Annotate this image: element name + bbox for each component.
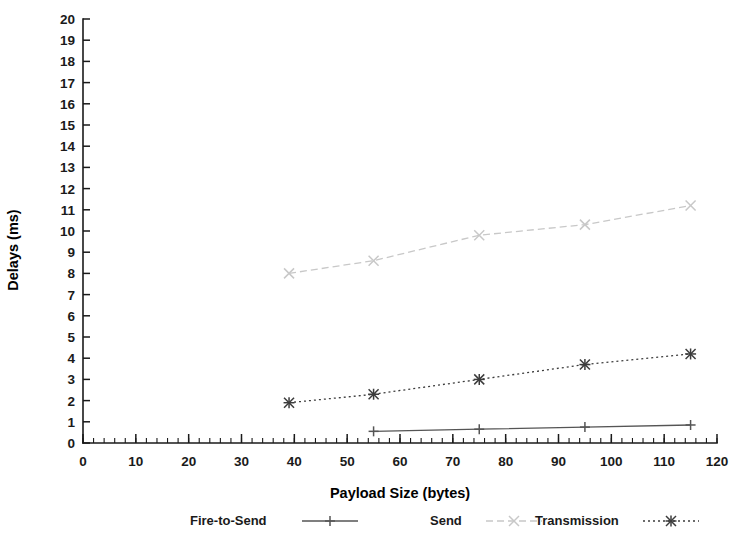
- data-point-marker: [579, 359, 590, 370]
- y-tick-label: 0: [67, 436, 75, 451]
- y-tick-label: 6: [67, 309, 75, 324]
- legend-label: Transmission: [535, 513, 619, 528]
- x-tick-label: 50: [340, 454, 355, 469]
- x-tick-label: 110: [653, 454, 675, 469]
- x-tick-label: 70: [445, 454, 460, 469]
- data-point-marker: [284, 397, 295, 408]
- y-tick-label: 3: [67, 372, 75, 387]
- data-point-marker: [368, 389, 379, 400]
- x-tick-label: 60: [392, 454, 407, 469]
- y-tick-label: 4: [67, 351, 75, 366]
- x-tick-label: 120: [706, 454, 729, 469]
- x-axis-title: Payload Size (bytes): [330, 485, 470, 501]
- x-tick-label: 80: [498, 454, 513, 469]
- y-tick-label: 20: [60, 12, 75, 27]
- y-tick-label: 5: [67, 330, 75, 345]
- chart-background: [0, 0, 755, 545]
- legend-label: Send: [430, 513, 462, 528]
- y-tick-label: 8: [67, 266, 75, 281]
- y-tick-label: 1: [67, 415, 75, 430]
- y-tick-label: 18: [60, 54, 76, 69]
- delays-vs-payload-size-chart: 01234567891011121314151617181920 0102030…: [0, 0, 755, 545]
- legend-label: Fire-to-Send: [190, 513, 267, 528]
- y-tick-label: 16: [60, 97, 76, 112]
- y-tick-label: 10: [60, 224, 75, 239]
- y-tick-label: 15: [60, 118, 76, 133]
- data-point-marker: [474, 374, 485, 385]
- y-tick-label: 17: [60, 76, 75, 91]
- x-tick-label: 10: [128, 454, 143, 469]
- x-tick-label: 100: [600, 454, 623, 469]
- data-point-marker: [685, 348, 696, 359]
- y-axis-title: Delays (ms): [5, 209, 21, 291]
- y-tick-label: 14: [60, 139, 76, 154]
- chart-canvas: 01234567891011121314151617181920 0102030…: [0, 0, 755, 545]
- y-tick-label: 13: [60, 160, 76, 175]
- y-tick-label: 11: [61, 203, 76, 218]
- x-tick-label: 90: [551, 454, 566, 469]
- x-tick-label: 40: [287, 454, 302, 469]
- y-tick-label: 2: [67, 394, 75, 409]
- y-tick-label: 12: [60, 182, 75, 197]
- data-point-marker: [666, 516, 677, 527]
- x-tick-label: 20: [181, 454, 196, 469]
- x-tick-label: 0: [79, 454, 87, 469]
- y-tick-label: 9: [67, 245, 75, 260]
- y-tick-label: 19: [60, 33, 75, 48]
- y-tick-label: 7: [67, 288, 75, 303]
- x-tick-label: 30: [234, 454, 249, 469]
